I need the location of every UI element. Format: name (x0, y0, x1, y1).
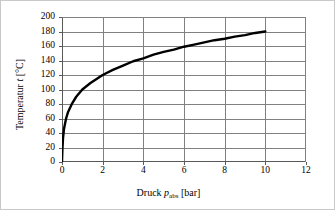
x-axis-title-prefix: Druck (137, 187, 165, 198)
y-axis-title-symbol: t (14, 79, 25, 82)
x-tick-label: 8 (222, 166, 227, 176)
x-axis-title: Druck pabs [bar] (1, 187, 335, 200)
x-tick-label: 2 (100, 166, 105, 176)
x-tick-label: 4 (141, 166, 146, 176)
x-axis-tick-labels: 024681012 (1, 1, 335, 210)
y-axis-title-suffix: [°C] (14, 59, 25, 79)
y-axis-title: Temperatur t [°C] (14, 25, 25, 165)
x-tick-label: 0 (60, 166, 65, 176)
x-tick-label: 6 (182, 166, 187, 176)
chart-figure: 020406080100120140160180200 024681012 Te… (0, 0, 335, 210)
x-tick-label: 10 (261, 166, 271, 176)
y-axis-title-prefix: Temperatur (14, 82, 25, 130)
x-tick-label: 12 (301, 166, 311, 176)
x-axis-title-suffix: [bar] (178, 187, 200, 198)
